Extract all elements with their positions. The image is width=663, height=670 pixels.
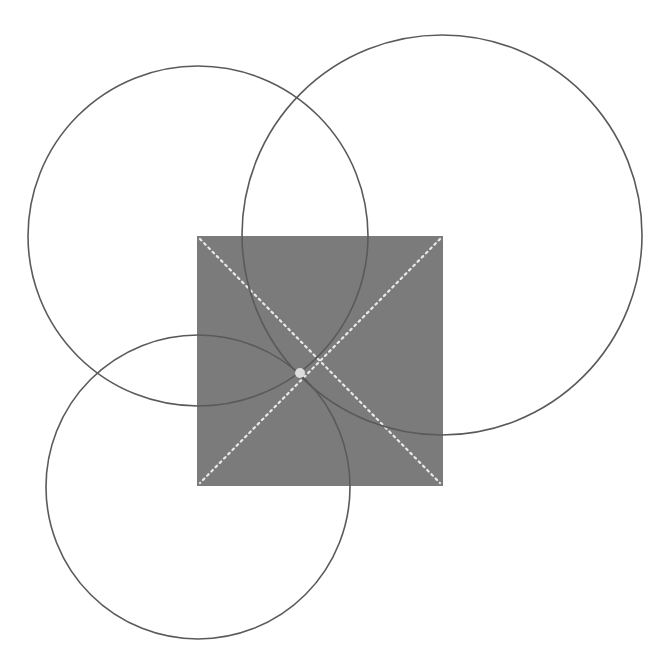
geometry-diagram [0,0,663,670]
center-point [295,368,305,378]
